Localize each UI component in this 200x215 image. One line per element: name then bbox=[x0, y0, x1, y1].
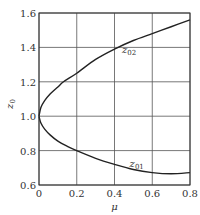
x-tick-label: 0 bbox=[36, 188, 42, 199]
series-z02-label: z02 bbox=[121, 44, 136, 57]
x-tick-label: 0.8 bbox=[182, 188, 198, 199]
chart: 00.20.40.60.80.60.81.01.21.41.6 z02z01μz… bbox=[0, 0, 200, 215]
y-tick-label: 0.8 bbox=[20, 146, 36, 157]
y-tick-label: 0.6 bbox=[20, 180, 36, 191]
y-tick-label: 1.0 bbox=[20, 111, 36, 122]
x-tick-label: 0.4 bbox=[107, 188, 123, 199]
y-tick-label: 1.6 bbox=[20, 8, 36, 19]
x-axis-label: μ bbox=[111, 201, 118, 212]
y-tick-label: 1.2 bbox=[20, 77, 36, 88]
x-tick-label: 0.2 bbox=[69, 188, 85, 199]
grid-layer bbox=[39, 13, 190, 185]
series-label-sub: 02 bbox=[127, 49, 136, 57]
x-tick-label: 0.6 bbox=[144, 188, 160, 199]
tick-layer: 00.20.40.60.80.60.81.01.21.41.6 bbox=[20, 8, 198, 199]
series-label-sub: 01 bbox=[135, 163, 144, 171]
y-tick-label: 1.4 bbox=[20, 42, 36, 53]
y-axis-label: z0 bbox=[4, 99, 17, 110]
y-axis-label-sub: 0 bbox=[9, 99, 17, 103]
